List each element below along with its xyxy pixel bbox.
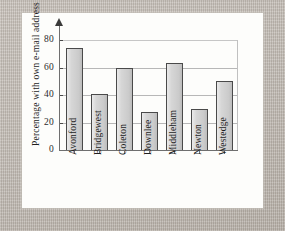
y-axis-arrow-icon	[55, 18, 63, 26]
x-label-avonford: Avonford	[69, 118, 79, 155]
x-label-bridgewest: Bridgewest	[94, 110, 104, 155]
figure-page-background: Percentage with own e-mail address 80 60…	[0, 0, 285, 231]
x-label-newton: Newton	[194, 124, 204, 155]
plot-frame-right	[237, 40, 238, 150]
gridline-40	[59, 95, 238, 96]
y-tick-80: 80	[30, 40, 54, 41]
y-tick-20: 20	[30, 123, 54, 124]
x-label-coleton: Coleton	[119, 124, 129, 155]
x-label-westedge: Westedge	[219, 117, 229, 155]
x-label-downlee: Downlee	[144, 120, 154, 155]
bar-chart-plot-area: Percentage with own e-mail address 80 60…	[22, 13, 263, 208]
figure-card: Percentage with own e-mail address 80 60…	[22, 13, 263, 208]
plot-frame-top	[59, 40, 238, 41]
gridline-60	[59, 68, 238, 69]
x-label-middleham: Middleham	[169, 110, 179, 155]
y-axis-line	[59, 25, 60, 151]
y-tick-0: 0	[30, 150, 54, 151]
y-tick-40: 40	[30, 95, 54, 96]
y-tick-60: 60	[30, 68, 54, 69]
